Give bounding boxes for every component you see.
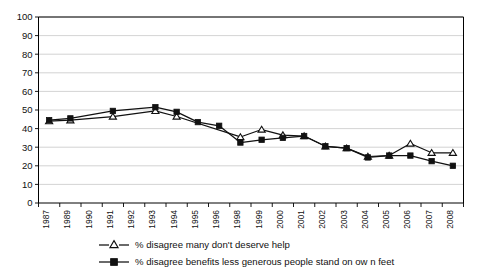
data-point-marker xyxy=(216,123,221,128)
x-tick-label: 1992 xyxy=(126,210,136,229)
x-tick-label: 1990 xyxy=(84,210,94,229)
y-tick-label: 30 xyxy=(22,142,33,153)
chart-legend: % disagree many don't deserve help % dis… xyxy=(0,236,480,276)
y-axis-labels-group: 0102030405060708090100 xyxy=(17,11,33,208)
chart-plot-area: 0102030405060708090100 19871989199019911… xyxy=(0,0,480,276)
data-point-marker xyxy=(280,135,285,140)
x-tick-label: 2004 xyxy=(360,210,370,229)
y-tick-label: 60 xyxy=(22,86,33,97)
y-tick-marks-group xyxy=(35,17,39,203)
x-tick-label: 2002 xyxy=(317,210,327,229)
x-tick-label: 1987 xyxy=(41,210,51,229)
chart-screenshot: 0102030405060708090100 19871989199019911… xyxy=(0,0,480,276)
x-tick-label: 1994 xyxy=(169,210,179,229)
y-tick-label: 0 xyxy=(27,197,32,208)
y-tick-label: 10 xyxy=(22,179,33,190)
x-tick-label: 1998 xyxy=(232,210,242,229)
x-tick-label: 2000 xyxy=(275,210,285,229)
legend-item-series-2: % disagree benefits less generous people… xyxy=(0,253,480,270)
x-tick-label: 2001 xyxy=(296,210,306,229)
data-point-marker xyxy=(259,137,264,142)
x-axis-labels-group: 1987198919901991199219931994199519961998… xyxy=(41,210,455,229)
open-triangle-marker-icon xyxy=(98,238,130,252)
data-point-marker xyxy=(450,163,455,168)
data-point-marker xyxy=(153,105,158,110)
data-point-marker xyxy=(238,140,243,145)
data-series-group xyxy=(46,105,457,169)
data-point-marker xyxy=(407,140,414,146)
data-point-marker xyxy=(301,133,306,138)
x-tick-label: 1995 xyxy=(190,210,200,229)
data-point-marker xyxy=(195,119,200,124)
data-point-marker xyxy=(46,118,51,123)
data-point-marker xyxy=(174,109,179,114)
x-tick-label: 1996 xyxy=(211,210,221,229)
data-point-marker xyxy=(365,155,370,160)
y-tick-label: 100 xyxy=(17,11,33,22)
y-tick-label: 70 xyxy=(22,67,33,78)
x-tick-label: 2007 xyxy=(424,210,434,229)
x-tick-label: 2003 xyxy=(339,210,349,229)
legend-label-series-1: % disagree many don't deserve help xyxy=(135,238,290,252)
x-tick-label: 1989 xyxy=(62,210,72,229)
y-tick-label: 20 xyxy=(22,160,33,171)
x-tick-label: 2008 xyxy=(445,210,455,229)
x-tick-label: 2005 xyxy=(381,210,391,229)
data-point-marker xyxy=(408,153,413,158)
data-point-marker xyxy=(429,158,434,163)
gridlines-group xyxy=(39,17,464,184)
data-point-marker xyxy=(386,153,391,158)
y-tick-label: 90 xyxy=(22,30,33,41)
y-tick-label: 80 xyxy=(22,49,33,60)
data-point-marker xyxy=(344,145,349,150)
x-tick-marks-group xyxy=(39,203,464,207)
x-tick-label: 1991 xyxy=(105,210,115,229)
data-point-marker xyxy=(323,144,328,149)
data-point-marker xyxy=(258,126,265,132)
x-tick-label: 2006 xyxy=(402,210,412,229)
x-tick-label: 1993 xyxy=(147,210,157,229)
x-tick-label: 1999 xyxy=(254,210,264,229)
legend-item-series-1: % disagree many don't deserve help xyxy=(0,236,480,253)
line-chart-svg: 0102030405060708090100 19871989199019911… xyxy=(0,0,480,276)
legend-label-series-2: % disagree benefits less generous people… xyxy=(135,255,394,269)
filled-square-marker-icon xyxy=(98,255,130,269)
data-point-marker xyxy=(110,108,115,113)
y-tick-label: 40 xyxy=(22,123,33,134)
data-point-marker xyxy=(68,116,73,121)
y-tick-label: 50 xyxy=(22,104,33,115)
